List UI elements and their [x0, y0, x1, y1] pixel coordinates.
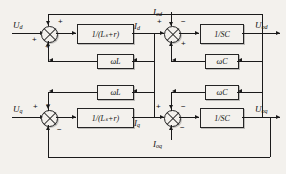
summing-junction-input-q [41, 110, 58, 127]
arrowhead-sum3-top [46, 105, 50, 109]
summing-junction-cap-d [164, 26, 181, 43]
wire-capq-to-uoq [242, 117, 280, 118]
arrowhead-sum3-bottom [46, 126, 50, 130]
wire-uoq-tap-up [262, 60, 263, 117]
wire-uod-tap-up [262, 14, 263, 33]
wire-input-ud [12, 33, 42, 34]
sign-sum1-top-plus: + [58, 18, 63, 26]
sign-sum4-bottom-minus: − [180, 124, 185, 132]
block-wl-top[interactable]: ωL [97, 54, 134, 69]
sign-sum2-bottom-plus: + [181, 40, 186, 48]
wire-iq-tap [154, 60, 155, 117]
block-cap-q[interactable]: 1/SC [200, 108, 244, 128]
sign-sum4-left-plus: + [156, 103, 161, 111]
label-current-id: Id [134, 22, 140, 31]
sign-sum2-left-plus: + [157, 18, 162, 26]
arrowhead-plantd-in [72, 31, 76, 35]
arrowhead-sum1-bottom [46, 42, 50, 46]
arrowhead-wlbottom-in [133, 89, 137, 93]
block-wc-bottom[interactable]: ωC [205, 85, 239, 100]
label-disturbance-ioq: Ioq [153, 140, 162, 149]
sign-sum3-bottom-minus: − [57, 126, 62, 134]
sign-sum2-top-minus: − [181, 18, 186, 26]
wire-wlbottom-out [48, 92, 97, 93]
arrowhead-sum4-top [169, 105, 173, 109]
sign-sum4-top-minus: − [181, 103, 186, 111]
arrowhead-wctop-in [238, 58, 242, 62]
arrowhead-capq-in [195, 115, 199, 119]
arrowhead-plantq-in [72, 115, 76, 119]
arrowhead-sum2-bottom [169, 42, 173, 46]
arrowhead-capd-in [195, 31, 199, 35]
block-cap-d[interactable]: 1/SC [200, 24, 244, 44]
arrowhead-wcbottom-out [172, 89, 176, 93]
arrowhead-wcbottom-in [238, 89, 242, 93]
arrowhead-output-uod [276, 31, 280, 35]
arrowhead-output-uoq [276, 115, 280, 119]
summing-junction-input-d [41, 26, 58, 43]
arrowhead-wltop-out [49, 58, 53, 62]
arrowhead-iod [169, 22, 173, 26]
sign-sum1-left-plus: + [32, 36, 37, 44]
wire-bottom-rail [48, 157, 270, 158]
wire-wcbottom-out [171, 92, 205, 93]
block-diagram-canvas: Ud + + + 1/(Lₛ+r) Id + − + Iod 1/SC Uod … [0, 0, 286, 174]
wire-top-rail [48, 14, 263, 15]
block-plant-d[interactable]: 1/(Lₛ+r) [77, 24, 134, 44]
label-input-ud: Ud [13, 21, 23, 30]
summing-junction-cap-q [164, 110, 181, 127]
sign-sum3-left-plus: + [33, 103, 38, 111]
arrowhead-wctop-out [172, 58, 176, 62]
wire-wctop-out [171, 61, 205, 62]
wire-input-uq [12, 117, 42, 118]
block-wc-top[interactable]: ωC [205, 54, 239, 69]
wire-uoq-tap-bottom [270, 117, 271, 157]
arrowhead-sum1-top [46, 21, 50, 25]
label-current-iq: Iq [134, 119, 140, 128]
arrowhead-ioq [169, 126, 173, 130]
label-disturbance-iod: Iod [153, 8, 162, 17]
label-input-uq: Uq [13, 105, 23, 114]
block-plant-q[interactable]: 1/(Lₛ+r) [77, 108, 134, 128]
wire-wltop-out [48, 61, 97, 62]
wire-capd-to-uod [242, 33, 280, 34]
arrowhead-wltop-in [133, 58, 137, 62]
block-wl-bottom[interactable]: ωL [97, 85, 134, 100]
arrowhead-wlbottom-out [49, 89, 53, 93]
